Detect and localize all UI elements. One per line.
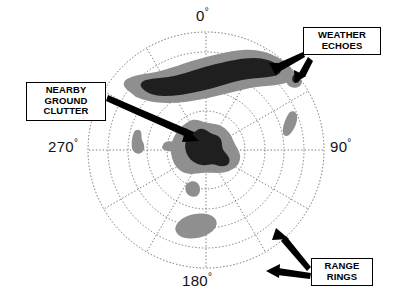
east-echo xyxy=(283,111,297,136)
callout-weather-echoes: WEATHER ECHOES xyxy=(303,27,381,55)
south-near-echo xyxy=(185,181,200,197)
south-echo xyxy=(173,210,219,242)
radar-diagram: 0° 90° 180° 270° WEATHER ECHOES NEARBY G… xyxy=(0,0,410,305)
arrow-head-ring-lower xyxy=(266,264,280,278)
radar-echoes xyxy=(124,50,304,242)
arrow-to-ring-upper xyxy=(281,236,311,271)
arrow-head-ring-upper xyxy=(272,228,289,240)
bearing-label-270: 270° xyxy=(48,137,78,155)
callout-range-rings: RANGE RINGS xyxy=(311,258,373,286)
bearing-label-0: 0° xyxy=(196,6,209,24)
bearing-label-90: 90° xyxy=(330,137,352,155)
west-echo xyxy=(132,130,145,154)
callout-nearby-ground-clutter: NEARBY GROUND CLUTTER xyxy=(26,82,106,121)
bearing-label-180: 180° xyxy=(182,271,212,289)
